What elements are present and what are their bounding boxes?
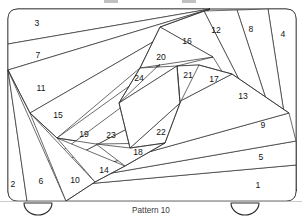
piece-label-3: 3 bbox=[35, 18, 40, 28]
tab-handle-left[interactable] bbox=[24, 203, 52, 215]
tab-handle-right[interactable] bbox=[231, 203, 259, 215]
figure-caption: Pattern 10 bbox=[132, 206, 170, 215]
pattern-diagram-svg: 1 2 3 4 5 6 7 8 9 10 11 12 13 14 15 16 1… bbox=[0, 0, 302, 224]
piece-label-11: 11 bbox=[37, 83, 46, 93]
piece-label-17: 17 bbox=[209, 74, 219, 84]
pattern-pieces-group bbox=[8, 9, 296, 201]
piece-label-8: 8 bbox=[249, 24, 254, 34]
piece-label-12: 12 bbox=[211, 25, 221, 35]
piece-label-6: 6 bbox=[39, 176, 44, 186]
piece-label-19: 19 bbox=[79, 129, 89, 139]
piece-label-15: 15 bbox=[53, 110, 63, 120]
top-tab-artifact-left bbox=[104, 0, 118, 3]
piece-label-20: 20 bbox=[156, 52, 166, 62]
piece-label-4: 4 bbox=[281, 29, 286, 39]
piece-label-16: 16 bbox=[182, 36, 192, 46]
piece-label-10: 10 bbox=[70, 175, 80, 185]
pattern-figure: 1 2 3 4 5 6 7 8 9 10 11 12 13 14 15 16 1… bbox=[0, 0, 302, 224]
piece-label-9: 9 bbox=[261, 120, 266, 130]
piece-label-13: 13 bbox=[238, 91, 248, 101]
piece-label-23: 23 bbox=[106, 130, 116, 140]
piece-label-7: 7 bbox=[36, 50, 41, 60]
piece-label-18: 18 bbox=[133, 147, 143, 157]
piece-label-24: 24 bbox=[134, 73, 144, 83]
piece-label-21: 21 bbox=[183, 70, 193, 80]
piece-label-14: 14 bbox=[99, 165, 109, 175]
piece-label-5: 5 bbox=[259, 152, 264, 162]
piece-label-1: 1 bbox=[256, 180, 261, 190]
piece-label-22: 22 bbox=[156, 127, 166, 137]
piece-label-2: 2 bbox=[11, 179, 16, 189]
top-tab-artifact-right bbox=[182, 0, 196, 3]
